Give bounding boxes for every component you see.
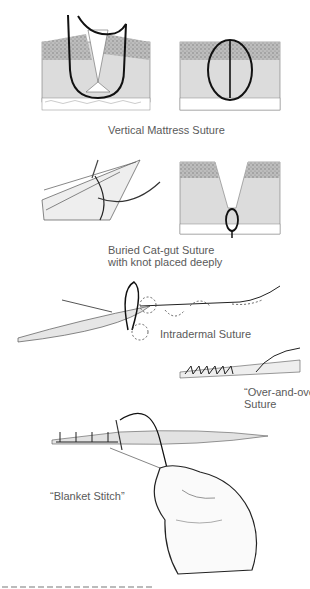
vertical-mattress-label: Vertical Mattress Suture	[108, 124, 225, 137]
blanket-stitch-label: “Blanket Stitch”	[50, 490, 125, 503]
figure-caption-clipped	[2, 583, 152, 589]
hand-illustration	[154, 466, 256, 574]
vertical-mattress-open-diagram	[42, 15, 150, 110]
intradermal-label: Intradermal Suture	[160, 328, 251, 341]
over-and-over-diagram	[180, 348, 300, 378]
buried-catgut-sketch	[42, 160, 160, 220]
over-and-over-label-line2: Suture	[244, 398, 276, 411]
vertical-mattress-closed-diagram	[180, 40, 280, 110]
suture-illustrations	[0, 0, 310, 589]
buried-catgut-diagram	[180, 162, 280, 238]
buried-catgut-label-line2: with knot placed deeply	[108, 256, 222, 269]
